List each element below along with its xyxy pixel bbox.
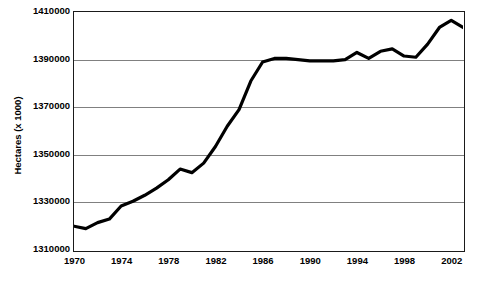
data-line-layer [74,12,463,250]
x-axis-tick-labels: 197019741978198219861990199419982002 [73,256,465,276]
y-axis-tick-label: 1350000 [8,149,70,159]
x-axis-tick-label: 2002 [422,256,479,266]
plot-area [73,11,465,252]
y-axis-tick-label: 1390000 [8,54,70,64]
y-axis-tick-label: 1410000 [8,6,70,16]
y-axis-tick-labels: 1410000139000013700001350000133000013100… [6,0,70,282]
y-axis-tick-label: 1310000 [8,244,70,254]
series-line-hectares [74,20,463,228]
chart-container: Hectares (x 1000) 1410000139000013700001… [0,0,479,282]
y-axis-tick-label: 1370000 [8,101,70,111]
y-axis-tick-label: 1330000 [8,196,70,206]
